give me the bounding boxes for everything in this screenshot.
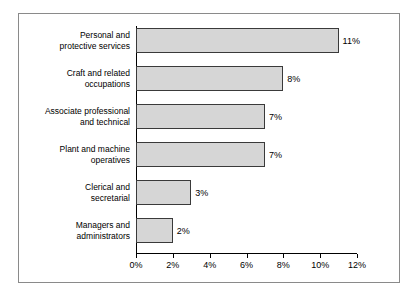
x-tick-mark — [210, 254, 211, 258]
category-label: Craft and relatedoccupations — [67, 68, 130, 90]
x-tick-label: 6% — [240, 260, 253, 270]
category-label-line: and technical — [45, 117, 130, 128]
category-label: Plant and machineoperatives — [60, 144, 130, 166]
category-label-line: secretarial — [85, 193, 130, 204]
x-tick-mark — [173, 254, 174, 258]
bar[interactable] — [136, 180, 191, 205]
x-tick-label: 10% — [311, 260, 329, 270]
bar-row[interactable]: Craft and relatedoccupations8% — [136, 66, 374, 91]
bar-value-label: 3% — [191, 188, 208, 198]
x-tick-mark — [283, 254, 284, 258]
category-label-line: Plant and machine — [60, 144, 130, 155]
bar[interactable] — [136, 28, 339, 53]
bar[interactable] — [136, 142, 265, 167]
bar-row[interactable]: Plant and machineoperatives7% — [136, 142, 374, 167]
bar-row[interactable]: Personal andprotective services11% — [136, 28, 374, 53]
category-label-line: Associate professional — [45, 106, 130, 117]
bar[interactable] — [136, 218, 173, 243]
plot-area: Personal andprotective services11%Craft … — [136, 26, 374, 253]
bar-row[interactable]: Clerical andsecretarial3% — [136, 180, 374, 205]
bar-value-label: 11% — [339, 36, 360, 46]
x-tick-mark — [247, 254, 248, 258]
category-label-line: administrators — [76, 231, 130, 242]
x-tick-mark — [320, 254, 321, 258]
bar-value-label: 7% — [265, 150, 282, 160]
category-label-line: protective services — [60, 41, 130, 52]
category-label: Managers andadministrators — [76, 220, 130, 242]
category-label-line: Clerical and — [85, 182, 130, 193]
x-tick-label: 12% — [348, 260, 366, 270]
category-label-line: Managers and — [76, 220, 130, 231]
category-label: Personal andprotective services — [60, 30, 130, 52]
category-label: Clerical andsecretarial — [85, 182, 130, 204]
category-label-line: Craft and related — [67, 68, 130, 79]
category-label-line: occupations — [67, 79, 130, 90]
x-tick-label: 0% — [129, 260, 142, 270]
bar-row[interactable]: Associate professionaland technical7% — [136, 104, 374, 129]
x-tick-label: 8% — [277, 260, 290, 270]
chart-frame: Personal andprotective services11%Craft … — [18, 13, 400, 283]
x-tick-mark — [136, 254, 137, 258]
category-label-line: operatives — [60, 155, 130, 166]
bar[interactable] — [136, 104, 265, 129]
category-label-line: Personal and — [60, 30, 130, 41]
bar-value-label: 2% — [173, 226, 190, 236]
bar-value-label: 7% — [265, 112, 282, 122]
bar[interactable] — [136, 66, 283, 91]
bar-row[interactable]: Managers andadministrators2% — [136, 218, 374, 243]
x-tick-mark — [357, 254, 358, 258]
x-tick-label: 4% — [203, 260, 216, 270]
category-label: Associate professionaland technical — [45, 106, 130, 128]
bar-value-label: 8% — [283, 74, 300, 84]
x-tick-label: 2% — [166, 260, 179, 270]
